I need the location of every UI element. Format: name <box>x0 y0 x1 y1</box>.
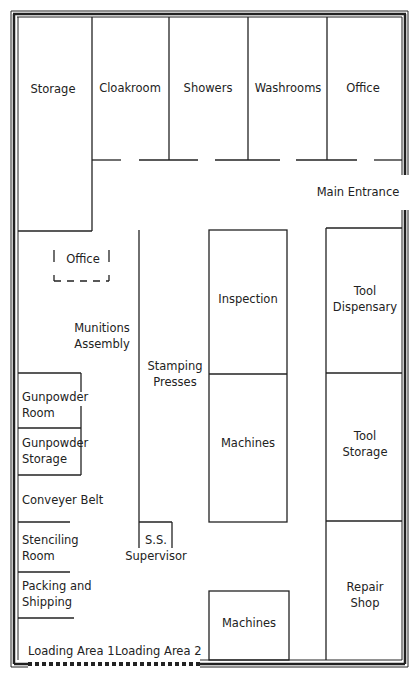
office-dashed-label: Office <box>66 252 100 266</box>
inspection-label: Inspection <box>218 292 277 306</box>
stenciling-room-label-2: Room <box>22 549 55 563</box>
machines-mid-label: Machines <box>221 436 275 450</box>
stamping-presses-label-2: Presses <box>153 375 196 389</box>
gunpowder-room-label-1: Gunpowder <box>22 390 89 404</box>
tool-dispensary-label-2: Dispensary <box>333 300 397 314</box>
gunpowder-storage-label-1: Gunpowder <box>22 436 89 450</box>
ss-supervisor-label-2: Supervisor <box>125 549 187 563</box>
main-entrance-label: Main Entrance <box>317 185 400 199</box>
office-top-label: Office <box>346 81 380 95</box>
floor-plan: Storage Cloakroom Showers Washrooms Offi… <box>0 0 419 676</box>
repair-shop-label-2: Shop <box>351 596 380 610</box>
gunpowder-room-label-2: Room <box>22 406 55 420</box>
munitions-assembly-label-2: Assembly <box>74 337 130 351</box>
inspection-machines-block <box>209 230 287 522</box>
tool-dispensary-label-1: Tool <box>353 284 376 298</box>
loading-area-1-label: Loading Area 1 <box>28 644 114 658</box>
stenciling-room-label-1: Stenciling <box>22 533 79 547</box>
machines-bottom-label: Machines <box>222 616 276 630</box>
repair-shop-label-1: Repair <box>347 580 384 594</box>
ss-supervisor-label-1: S.S. <box>145 533 167 547</box>
washrooms-label: Washrooms <box>255 81 322 95</box>
tool-storage-label-2: Storage <box>343 445 388 459</box>
stamping-presses-walls <box>139 230 172 548</box>
packing-shipping-label-1: Packing and <box>22 579 92 593</box>
loading-area-2-label: Loading Area 2 <box>115 644 201 658</box>
storage-label: Storage <box>31 82 76 96</box>
conveyer-belt-label: Conveyer Belt <box>22 493 104 507</box>
showers-label: Showers <box>184 81 233 95</box>
tool-storage-label-1: Tool <box>353 429 376 443</box>
packing-shipping-label-2: Shipping <box>22 595 72 609</box>
gunpowder-storage-label-2: Storage <box>22 452 67 466</box>
munitions-assembly-label-1: Munitions <box>74 321 130 335</box>
cloakroom-label: Cloakroom <box>99 81 161 95</box>
stamping-presses-label-1: Stamping <box>147 359 202 373</box>
